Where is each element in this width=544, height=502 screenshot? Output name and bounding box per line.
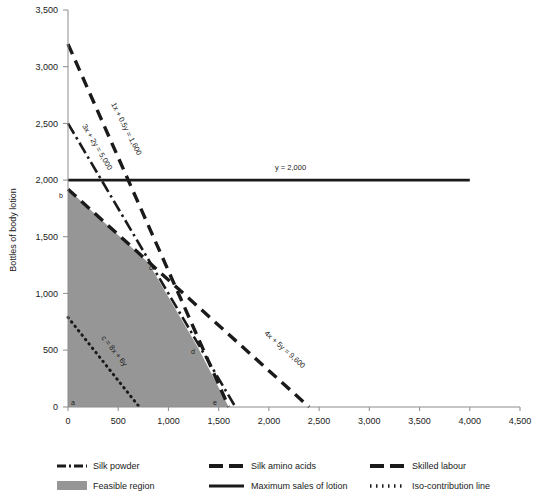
x-tick-label: 1,500	[207, 416, 230, 426]
vertex-label-b: b	[59, 192, 63, 199]
x-tick-label: 2,500	[308, 416, 331, 426]
legend-label: Iso-contribution line	[412, 481, 490, 491]
x-tick-label: 4,500	[509, 416, 532, 426]
y-tick-label: 1,500	[35, 232, 58, 242]
legend-label: Silk amino acids	[251, 461, 317, 471]
x-tick-label: 2,000	[258, 416, 281, 426]
legend-label: Skilled labour	[412, 461, 466, 471]
x-tick-label: 1,000	[157, 416, 180, 426]
x-tick-label: 500	[111, 416, 126, 426]
legend-label: Silk powder	[93, 461, 140, 471]
legend-marker-swatch	[57, 481, 87, 490]
label-maximum-sales: y = 2,000	[275, 163, 306, 172]
x-tick-label: 4,000	[459, 416, 482, 426]
vertex-label-d: d	[191, 348, 195, 355]
legend-label: Feasible region	[93, 481, 155, 491]
x-tick-label: 3,500	[408, 416, 431, 426]
y-tick-label: 3,000	[35, 62, 58, 72]
vertex-label-e: e	[213, 399, 217, 406]
y-tick-label: 0	[53, 402, 58, 412]
y-axis-title: Bottles of body lotion	[8, 188, 18, 272]
linear-programming-chart: 3,500 3,000 2,500 2,000 1,500 1,000 500 …	[0, 0, 544, 502]
x-tick-label: 3,000	[358, 416, 381, 426]
x-tick-label: 0	[65, 416, 70, 426]
legend-label: Maximum sales of lotion	[251, 481, 348, 491]
y-tick-label: 2,500	[35, 119, 58, 129]
y-tick-label: 3,500	[35, 5, 58, 15]
y-tick-label: 1,000	[35, 289, 58, 299]
y-tick-label: 2,000	[35, 175, 58, 185]
legend-item-feasible-region: Feasible region	[57, 481, 155, 491]
chart-canvas: 3,500 3,000 2,500 2,000 1,500 1,000 500 …	[0, 0, 544, 502]
vertex-label-c: c	[149, 264, 153, 271]
vertex-label-a: a	[71, 399, 75, 406]
y-tick-label: 500	[43, 345, 58, 355]
